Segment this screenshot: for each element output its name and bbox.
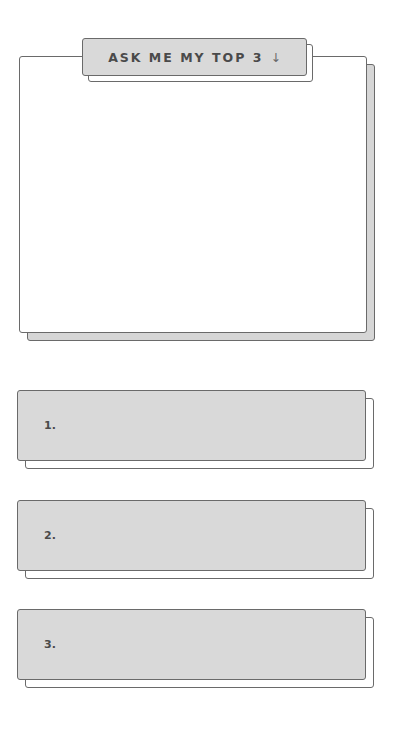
- main-panel: [19, 56, 367, 333]
- item-label-1: 1.: [44, 419, 56, 432]
- item-card-2: 2.: [17, 500, 366, 571]
- item-card-3: 3.: [17, 609, 366, 680]
- arrow-down-icon: ↓: [270, 50, 280, 65]
- header-title: ASK ME MY TOP 3: [108, 50, 263, 65]
- item-label-2: 2.: [44, 529, 56, 542]
- item-card-1: 1.: [17, 390, 366, 461]
- item-label-3: 3.: [44, 638, 56, 651]
- header-pill: ASK ME MY TOP 3 ↓: [82, 38, 307, 76]
